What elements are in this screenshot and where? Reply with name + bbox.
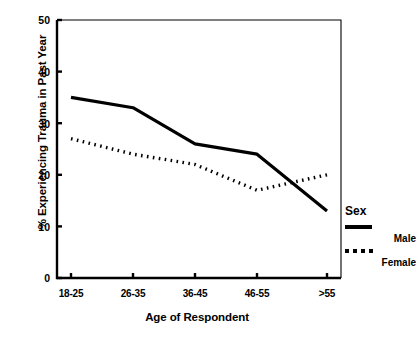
legend-entry-female: Female xyxy=(345,246,420,268)
legend-swatch-solid xyxy=(345,222,420,232)
data-series-layer xyxy=(71,97,327,211)
series-line-male xyxy=(71,97,327,211)
legend-swatch-dotted xyxy=(345,246,420,256)
legend-label-male: Male xyxy=(345,233,420,244)
legend: Sex Male Female xyxy=(345,204,420,270)
legend-entry-male: Male xyxy=(345,222,420,244)
plot-area xyxy=(0,0,420,343)
x-axis-title: Age of Respondent xyxy=(57,311,337,323)
legend-title: Sex xyxy=(345,204,420,218)
axis-frame xyxy=(57,20,341,278)
chart-figure: % Experiencing Trauma in Past Year 50 40… xyxy=(0,0,420,343)
series-line-female xyxy=(71,139,327,191)
legend-label-female: Female xyxy=(345,257,420,268)
